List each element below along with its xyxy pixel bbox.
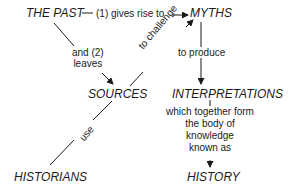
edge-label-line: and (2): [72, 47, 104, 58]
node-interpretations: INTERPRETATIONS: [172, 87, 283, 101]
edge-label-and-leaves: and (2) leaves: [72, 47, 104, 69]
edge-label-line: which together form: [150, 106, 270, 118]
node-history: HISTORY: [187, 170, 240, 184]
node-sources: SOURCES: [88, 87, 147, 101]
edge-label-line: known as: [150, 142, 270, 154]
edge-label-line: the body of: [150, 118, 270, 130]
node-myths: MYTHS: [190, 6, 232, 20]
node-historians: HISTORIANS: [14, 170, 87, 184]
edge-label-gives-rise-to: (1) gives rise to: [96, 8, 164, 19]
edge-label-line: knowledge: [150, 130, 270, 142]
edge-label-line: leaves: [72, 58, 104, 69]
edge-label-to-produce: to produce: [178, 47, 225, 58]
edge-label-which-together-form: which together form the body of knowledg…: [150, 106, 270, 154]
node-the-past: THE PAST: [26, 6, 84, 20]
